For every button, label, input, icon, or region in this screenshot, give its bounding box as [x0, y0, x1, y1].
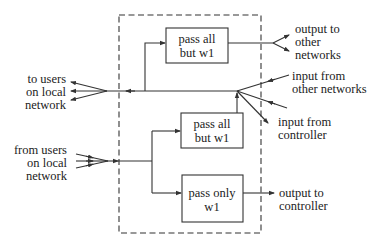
from-users-arrow-1	[86, 156, 93, 158]
output-other-arrow-1	[273, 35, 289, 43]
input-controller-label-1: input from	[278, 115, 331, 129]
to-users-label-2: on local	[26, 85, 66, 99]
input-other-line-1	[237, 75, 289, 91]
network-node-diagram: pass all but w1 pass all but w1 pass onl…	[0, 0, 381, 249]
from-users-arrow-3	[86, 164, 93, 166]
input-other-label-2: other networks	[292, 82, 367, 96]
from-users-label-3: network	[26, 169, 68, 183]
to-users-label-1: to users	[27, 72, 66, 86]
to-users-arrow-3	[71, 91, 107, 100]
top-filter-label-2: but w1	[180, 46, 214, 60]
to-users-label-3: network	[25, 98, 67, 112]
output-other-arrow-2	[273, 43, 289, 51]
bottom-filter-label-2: w1	[204, 200, 219, 214]
top-filter-label-1: pass all	[178, 32, 216, 46]
middle-filter-label-2: but w1	[195, 131, 229, 145]
output-controller-label-1: output to	[279, 186, 324, 200]
from-users-label-1: from users	[14, 143, 67, 157]
middle-filter-label-1: pass all	[193, 117, 231, 131]
bottom-filter-label-1: pass only	[189, 186, 237, 200]
input-other-label-1: input from	[292, 69, 345, 83]
output-other-label-2: other	[295, 35, 322, 49]
bus-to-top-filter	[145, 43, 165, 91]
output-controller-label-2: controller	[279, 199, 328, 213]
input-controller-label-2: controller	[278, 128, 327, 142]
input-other-arrow-1	[268, 79, 275, 81]
to-users-arrow-1	[71, 82, 107, 91]
input-other-arrow-2	[268, 102, 275, 105]
from-users-label-2: on local	[27, 156, 67, 170]
output-other-label-1: output to	[295, 22, 340, 36]
output-other-label-3: networks	[295, 48, 341, 62]
